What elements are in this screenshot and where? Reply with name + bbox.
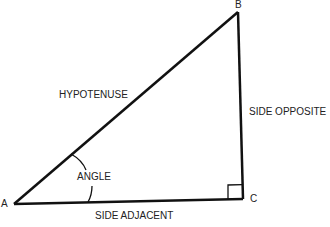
angle-label: ANGLE bbox=[77, 172, 111, 182]
right-angle-marker bbox=[228, 185, 243, 200]
side-opposite-label: SIDE OPPOSITE bbox=[249, 107, 326, 117]
hypotenuse-line bbox=[14, 12, 238, 204]
angle-arc-upper bbox=[71, 154, 86, 170]
vertex-b-label: B bbox=[235, 0, 242, 10]
side-opposite-line bbox=[238, 12, 243, 199]
side-adjacent-label: SIDE ADJACENT bbox=[95, 211, 173, 221]
vertex-c-label: C bbox=[250, 194, 257, 204]
side-adjacent-line bbox=[14, 199, 243, 204]
hypotenuse-label: HYPOTENUSE bbox=[59, 90, 128, 100]
vertex-a-label: A bbox=[1, 199, 8, 209]
angle-arc-lower bbox=[88, 186, 92, 202]
